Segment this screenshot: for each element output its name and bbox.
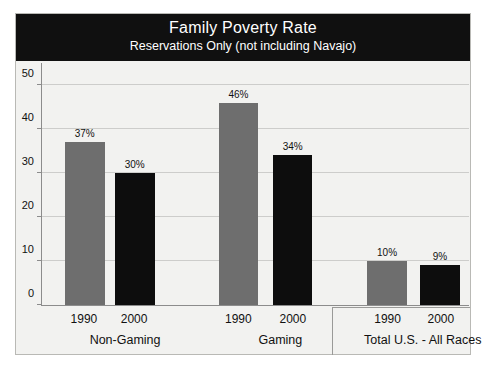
y-axis-tick-label: 40 <box>22 111 34 123</box>
bar-value-label: 34% <box>283 141 303 152</box>
y-axis-tick-label: 0 <box>28 287 34 299</box>
chart-title: Family Poverty Rate <box>16 17 470 38</box>
x-axis-series-label: 1990 <box>374 312 401 326</box>
x-axis-group-label: Non-Gaming <box>90 333 161 347</box>
y-axis-tick-mark <box>37 84 42 85</box>
y-axis-tick-mark <box>37 128 42 129</box>
x-axis-series-label: 2000 <box>279 312 306 326</box>
bar-value-label: 30% <box>125 159 145 170</box>
x-axis-series-label: 1990 <box>225 312 252 326</box>
y-axis-tick-mark <box>37 172 42 173</box>
x-axis-series-label: 2000 <box>121 312 148 326</box>
bar-value-label: 46% <box>228 89 248 100</box>
y-axis-tick-mark <box>37 216 42 217</box>
y-axis-tick-label: 50 <box>22 67 34 79</box>
x-axis-group-label: Gaming <box>258 333 302 347</box>
chart-subtitle: Reservations Only (not including Navajo) <box>16 38 470 55</box>
y-axis-tick-mark <box>37 304 42 305</box>
y-axis-tick-mark <box>37 260 42 261</box>
bar <box>273 155 313 305</box>
chart-frame: Family Poverty Rate Reservations Only (n… <box>15 13 471 355</box>
bar-value-label: 9% <box>433 251 447 262</box>
bar-value-label: 10% <box>377 247 397 258</box>
x-axis-series-label: 1990 <box>71 312 98 326</box>
y-axis-tick-label: 20 <box>22 199 34 211</box>
x-axis-series-label: 2000 <box>427 312 454 326</box>
y-axis-tick-label: 10 <box>22 243 34 255</box>
bar <box>65 142 105 305</box>
bar <box>115 173 155 305</box>
chart-title-band: Family Poverty Rate Reservations Only (n… <box>16 14 470 61</box>
x-axis-group-label: Total U.S. - All Races <box>364 333 481 347</box>
bar <box>420 265 460 305</box>
axis-label-zone: 19902000Non-Gaming19902000Gaming19902000… <box>41 307 470 355</box>
bar <box>219 103 259 305</box>
gridline <box>42 84 469 85</box>
bar <box>367 261 407 305</box>
plot-area: 0102030405037%30%46%34%10%9% <box>41 63 469 306</box>
y-axis-tick-label: 30 <box>22 155 34 167</box>
bar-value-label: 37% <box>75 128 95 139</box>
